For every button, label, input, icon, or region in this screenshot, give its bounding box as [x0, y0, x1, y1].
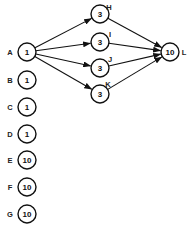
- node-l: 10L: [161, 43, 187, 61]
- node-c: 1C: [7, 98, 36, 116]
- node-label: J: [108, 55, 112, 64]
- node-f: 10F: [8, 178, 36, 196]
- node-label: G: [7, 210, 13, 219]
- node-label: F: [8, 183, 13, 192]
- node-label: L: [182, 48, 187, 57]
- node-value: 1: [25, 48, 30, 57]
- node-label: D: [7, 130, 13, 139]
- edge-h-l: [108, 18, 162, 47]
- node-value: 10: [166, 48, 175, 57]
- edge-i-l: [109, 43, 161, 50]
- node-label: A: [7, 48, 13, 57]
- node-k: 3K: [91, 80, 111, 103]
- node-value: 3: [98, 64, 103, 73]
- edge-a-h: [35, 18, 92, 47]
- node-g: 10G: [7, 205, 36, 223]
- node-value: 3: [98, 90, 103, 99]
- node-value: 3: [98, 38, 103, 47]
- edge-j-l: [109, 54, 161, 66]
- edges-layer: [35, 18, 162, 89]
- node-label: C: [7, 103, 13, 112]
- edge-a-j: [36, 54, 91, 66]
- node-label: E: [7, 156, 12, 165]
- network-diagram: 1A1B1C1D10E10F10G3H3I3J3K10L: [0, 0, 191, 236]
- node-label: I: [109, 30, 111, 39]
- node-b: 1B: [7, 71, 36, 89]
- node-i: 3I: [91, 30, 111, 51]
- node-value: 10: [23, 210, 32, 219]
- node-d: 1D: [7, 125, 36, 143]
- edge-k-l: [108, 57, 162, 89]
- node-value: 10: [23, 183, 32, 192]
- edge-a-k: [35, 56, 92, 89]
- node-j: 3J: [91, 55, 112, 77]
- node-label: K: [105, 80, 111, 89]
- node-label: H: [106, 3, 111, 12]
- node-value: 3: [98, 10, 103, 19]
- node-a: 1A: [7, 43, 36, 61]
- node-label: B: [7, 76, 13, 85]
- node-value: 10: [23, 156, 32, 165]
- node-value: 1: [25, 76, 30, 85]
- node-value: 1: [25, 103, 30, 112]
- node-e: 10E: [7, 151, 36, 169]
- node-h: 3H: [91, 3, 112, 23]
- edge-a-i: [36, 43, 91, 50]
- node-value: 1: [25, 130, 30, 139]
- nodes-layer: 1A1B1C1D10E10F10G3H3I3J3K10L: [7, 3, 187, 223]
